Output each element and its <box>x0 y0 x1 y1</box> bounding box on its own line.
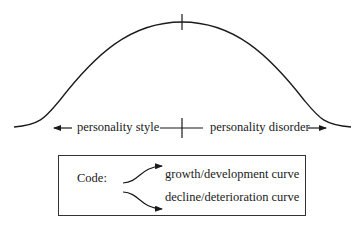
legend-growth-label: growth/development curve <box>165 168 299 181</box>
legend-box <box>58 155 306 216</box>
legend-title: Code: <box>77 172 107 185</box>
personality-style-label: personality style <box>77 121 159 134</box>
bell-curve <box>14 22 351 127</box>
personality-disorder-label: personality disorder <box>210 121 310 134</box>
legend-decline-label: decline/deterioration curve <box>165 191 299 204</box>
